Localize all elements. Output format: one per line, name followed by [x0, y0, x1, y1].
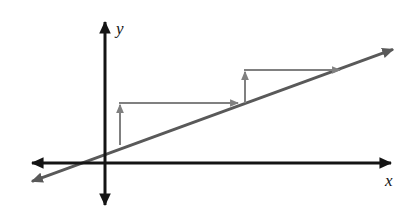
x-axis-label: x — [385, 172, 393, 189]
coordinate-plane-svg — [0, 0, 416, 218]
y-axis-label: y — [116, 20, 124, 37]
figure-canvas: y x — [0, 0, 416, 218]
